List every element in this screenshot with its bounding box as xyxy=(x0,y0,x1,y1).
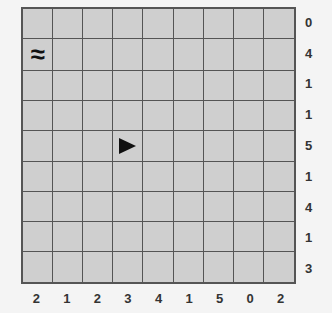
grid-cell-r6-c0[interactable] xyxy=(23,192,53,222)
grid-cell-r3-c7[interactable] xyxy=(234,101,264,131)
grid-cell-r8-c0[interactable] xyxy=(23,252,53,282)
grid-cell-r1-c5[interactable] xyxy=(174,39,204,71)
grid-cell-r8-c7[interactable] xyxy=(234,252,264,282)
column-clue-3: 3 xyxy=(113,288,144,308)
grid-cell-r4-c2[interactable] xyxy=(83,131,113,161)
grid-cell-r4-c7[interactable] xyxy=(234,131,264,161)
grid-cell-r7-c7[interactable] xyxy=(234,222,264,252)
grid-cell-r1-c0[interactable]: ≈ xyxy=(23,39,53,71)
grid-cell-r6-c7[interactable] xyxy=(234,192,264,222)
grid-cell-r6-c5[interactable] xyxy=(174,192,204,222)
column-clue-4: 4 xyxy=(143,288,174,308)
puzzle-grid: ≈ xyxy=(21,7,296,284)
grid-cell-r3-c6[interactable] xyxy=(204,101,234,131)
grid-cell-r5-c4[interactable] xyxy=(143,162,173,192)
column-clue-0: 2 xyxy=(21,288,52,308)
grid-cell-r7-c1[interactable] xyxy=(53,222,83,252)
grid-cell-r8-c3[interactable] xyxy=(113,252,143,282)
grid-cell-r5-c8[interactable] xyxy=(264,162,294,192)
grid-cell-r7-c8[interactable] xyxy=(264,222,294,252)
grid-cell-r6-c2[interactable] xyxy=(83,192,113,222)
grid-cell-r8-c6[interactable] xyxy=(204,252,234,282)
grid-cell-r2-c7[interactable] xyxy=(234,71,264,101)
grid-cell-r7-c0[interactable] xyxy=(23,222,53,252)
column-clue-8: 2 xyxy=(265,288,296,308)
grid-cell-r0-c3[interactable] xyxy=(113,9,143,39)
grid-cell-r0-c8[interactable] xyxy=(264,9,294,39)
grid-cell-r4-c5[interactable] xyxy=(174,131,204,161)
grid-cell-r1-c7[interactable] xyxy=(234,39,264,71)
grid-cell-r8-c5[interactable] xyxy=(174,252,204,282)
grid-cell-r7-c3[interactable] xyxy=(113,222,143,252)
grid-cell-r3-c3[interactable] xyxy=(113,101,143,131)
grid-cell-r0-c1[interactable] xyxy=(53,9,83,39)
grid-cell-r2-c1[interactable] xyxy=(53,71,83,101)
grid-cell-r0-c6[interactable] xyxy=(204,9,234,39)
grid-cell-r0-c0[interactable] xyxy=(23,9,53,39)
grid-cell-r7-c6[interactable] xyxy=(204,222,234,252)
grid-cell-r0-c7[interactable] xyxy=(234,9,264,39)
grid-cell-r4-c1[interactable] xyxy=(53,131,83,161)
grid-cell-r2-c2[interactable] xyxy=(83,71,113,101)
grid-cell-r0-c2[interactable] xyxy=(83,9,113,39)
grid-cell-r1-c8[interactable] xyxy=(264,39,294,71)
grid-cell-r3-c4[interactable] xyxy=(143,101,173,131)
grid-cell-r5-c3[interactable] xyxy=(113,162,143,192)
grid-cell-r4-c6[interactable] xyxy=(204,131,234,161)
grid-cell-r8-c8[interactable] xyxy=(264,252,294,282)
grid-cell-r2-c4[interactable] xyxy=(143,71,173,101)
grid-cell-r5-c7[interactable] xyxy=(234,162,264,192)
grid-cell-r6-c8[interactable] xyxy=(264,192,294,222)
column-clue-2: 2 xyxy=(82,288,113,308)
grid-cell-r3-c8[interactable] xyxy=(264,101,294,131)
grid-cell-r6-c4[interactable] xyxy=(143,192,173,222)
row-clue-7: 1 xyxy=(300,222,324,253)
grid-cell-r5-c5[interactable] xyxy=(174,162,204,192)
grid-cell-r4-c4[interactable] xyxy=(143,131,173,161)
grid-cell-r2-c8[interactable] xyxy=(264,71,294,101)
grid-cell-r8-c1[interactable] xyxy=(53,252,83,282)
row-clue-6: 4 xyxy=(300,192,324,223)
grid-cell-r5-c1[interactable] xyxy=(53,162,83,192)
column-clues: 212341502 xyxy=(21,288,296,308)
grid-cell-r7-c5[interactable] xyxy=(174,222,204,252)
grid-cell-r0-c4[interactable] xyxy=(143,9,173,39)
row-clue-1: 4 xyxy=(300,38,324,69)
grid-cell-r2-c3[interactable] xyxy=(113,71,143,101)
grid-cell-r6-c1[interactable] xyxy=(53,192,83,222)
grid-cell-r6-c3[interactable] xyxy=(113,192,143,222)
grid-cell-r2-c6[interactable] xyxy=(204,71,234,101)
grid-cell-r3-c0[interactable] xyxy=(23,101,53,131)
grid-cell-r4-c0[interactable] xyxy=(23,131,53,161)
grid-cell-r1-c2[interactable] xyxy=(83,39,113,71)
row-clue-8: 3 xyxy=(300,253,324,284)
grid-cell-r7-c2[interactable] xyxy=(83,222,113,252)
column-clue-1: 1 xyxy=(52,288,83,308)
grid-cell-r2-c0[interactable] xyxy=(23,71,53,101)
grid-cell-r0-c5[interactable] xyxy=(174,9,204,39)
grid-cell-r1-c4[interactable] xyxy=(143,39,173,71)
grid-cell-r3-c2[interactable] xyxy=(83,101,113,131)
column-clue-5: 1 xyxy=(174,288,205,308)
grid-cell-r8-c2[interactable] xyxy=(83,252,113,282)
grid-cell-r1-c1[interactable] xyxy=(53,39,83,71)
grid-cell-r4-c3[interactable] xyxy=(113,131,143,161)
row-clue-5: 1 xyxy=(300,161,324,192)
grid-cell-r6-c6[interactable] xyxy=(204,192,234,222)
grid-cell-r5-c0[interactable] xyxy=(23,162,53,192)
grid-cell-r8-c4[interactable] xyxy=(143,252,173,282)
grid-cell-r4-c8[interactable] xyxy=(264,131,294,161)
grid-cell-r7-c4[interactable] xyxy=(143,222,173,252)
row-clues: 041151413 xyxy=(300,7,324,284)
grid-cell-r1-c6[interactable] xyxy=(204,39,234,71)
row-clue-2: 1 xyxy=(300,69,324,100)
grid-cell-r2-c5[interactable] xyxy=(174,71,204,101)
grid-cell-r3-c5[interactable] xyxy=(174,101,204,131)
grid-cell-r5-c2[interactable] xyxy=(83,162,113,192)
grid-cell-r3-c1[interactable] xyxy=(53,101,83,131)
grid-cell-r5-c6[interactable] xyxy=(204,162,234,192)
column-clue-7: 0 xyxy=(235,288,266,308)
wave-icon: ≈ xyxy=(30,39,44,70)
ship-right-triangle-icon xyxy=(119,138,136,154)
grid-cell-r1-c3[interactable] xyxy=(113,39,143,71)
